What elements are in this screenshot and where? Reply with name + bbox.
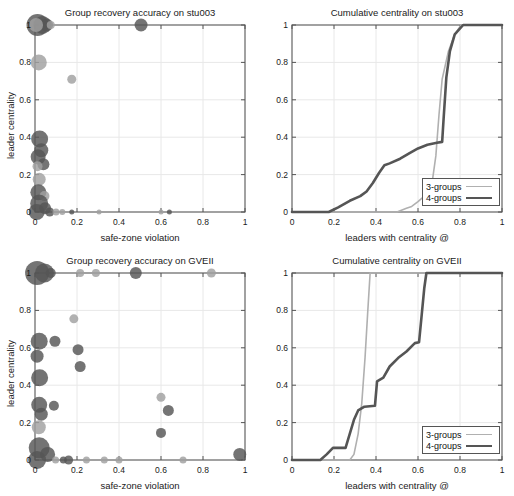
ytick-label: 0.4 (268, 380, 288, 390)
legend-swatch (466, 445, 492, 447)
xtick-label: 0.6 (412, 465, 424, 475)
legend-swatch (466, 434, 492, 435)
legend-label: 4-groups (426, 441, 462, 451)
ytick-label: 0.2 (268, 418, 288, 428)
figure-canvas: Group recovery accuracy on stu00300.20.4… (0, 0, 514, 496)
legend-entry: 3-groups (426, 429, 496, 440)
xtick-label: 0 (290, 465, 295, 475)
ytick-label: 0 (268, 455, 288, 465)
ytick-label: 0.6 (268, 343, 288, 353)
x-axis-label: leaders with centrality @ (292, 480, 502, 491)
xtick-label: 0.2 (328, 465, 340, 475)
legend: 3-groups4-groups (422, 426, 500, 454)
xtick-label: 1 (500, 465, 505, 475)
xtick-label: 0.4 (370, 465, 382, 475)
ytick-label: 0.8 (268, 305, 288, 315)
legend-entry: 4-groups (426, 440, 496, 451)
ytick-label: 1 (268, 268, 288, 278)
plot-area-cumulative-gveii (0, 0, 514, 496)
legend-label: 3-groups (426, 430, 462, 440)
xtick-label: 0.8 (454, 465, 466, 475)
